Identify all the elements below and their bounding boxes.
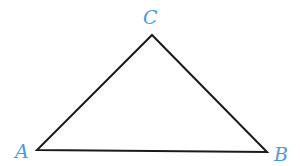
vertex-label-a: A xyxy=(15,142,29,161)
vertex-label-c: C xyxy=(143,8,158,27)
vertex-label-b: B xyxy=(274,145,288,164)
triangle-abc xyxy=(37,35,267,152)
